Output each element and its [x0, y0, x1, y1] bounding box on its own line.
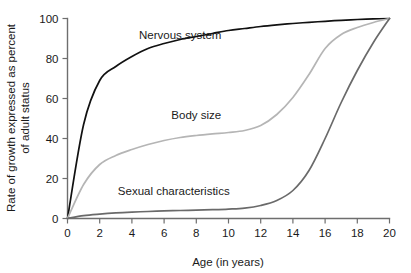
y-tick-label: 20	[46, 173, 59, 185]
growth-curves-chart: 020406080100 02468101214161820 Nervous s…	[0, 0, 411, 273]
y-axis-group: 020406080100	[39, 13, 67, 225]
x-tick-label: 10	[222, 227, 235, 239]
y-tick-label: 60	[46, 93, 59, 105]
x-tick-label: 0	[64, 227, 70, 239]
x-tick-label: 8	[193, 227, 199, 239]
x-tick-label: 20	[383, 227, 396, 239]
x-axis-title: Age (in years)	[192, 256, 264, 268]
series-inline-labels: Nervous systemBody sizeSexual characteri…	[118, 29, 230, 197]
x-tick-label: 16	[319, 227, 332, 239]
x-tick-label: 14	[287, 227, 300, 239]
y-tick-label: 80	[46, 53, 59, 65]
y-tick-label: 100	[39, 13, 58, 25]
x-tick-label: 18	[351, 227, 364, 239]
y-axis-title: Rate of growth expressed as percent of a…	[5, 23, 31, 212]
chart-canvas: 020406080100 02468101214161820 Nervous s…	[0, 0, 411, 273]
series-label-nervous-system: Nervous system	[139, 29, 221, 41]
x-tick-label: 6	[161, 227, 167, 239]
y-tick-label: 0	[52, 213, 58, 225]
y-tick-label: 40	[46, 133, 59, 145]
x-tick-label: 12	[254, 227, 267, 239]
y-axis-title-line2: of adult status	[19, 82, 31, 154]
series-label-sexual-characteristics: Sexual characteristics	[118, 185, 230, 197]
x-tick-label: 4	[129, 227, 136, 239]
y-axis-ticks: 020406080100	[39, 13, 67, 225]
x-tick-label: 2	[96, 227, 102, 239]
y-axis-title-line1: Rate of growth expressed as percent	[5, 23, 17, 212]
x-axis-ticks: 02468101214161820	[64, 219, 396, 239]
series-label-body-size: Body size	[171, 109, 221, 121]
x-axis-group: 02468101214161820	[64, 219, 396, 239]
